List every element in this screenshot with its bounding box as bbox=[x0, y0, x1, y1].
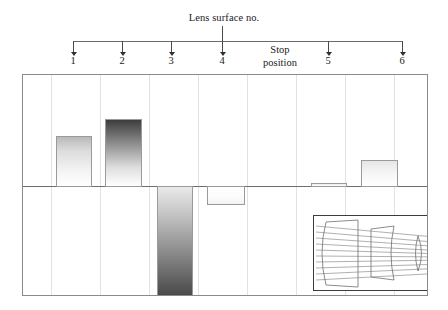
stop-position-line-1: Stop bbox=[249, 44, 311, 57]
surface-arrow-3 bbox=[171, 41, 172, 53]
lens-system-inset bbox=[313, 215, 428, 291]
bar-surface-6 bbox=[361, 160, 398, 187]
bar-surface-5 bbox=[311, 183, 347, 187]
surface-number-1: 1 bbox=[61, 55, 85, 67]
stop-position-line-2: position bbox=[249, 57, 311, 70]
lens-surface-caption: Lens surface no. bbox=[0, 12, 448, 24]
surface-arrow-5 bbox=[328, 41, 329, 53]
surface-arrow-6 bbox=[402, 41, 403, 53]
surface-arrow-2 bbox=[122, 41, 123, 53]
surface-callout-header: Lens surface no. 1 2 3 4 5 6 Stop positi… bbox=[0, 0, 448, 74]
bar-surface-2 bbox=[105, 119, 142, 187]
bar-surface-3 bbox=[157, 186, 193, 296]
surface-number-2: 2 bbox=[110, 55, 134, 67]
gridline-vertical bbox=[100, 75, 101, 295]
surface-number-6: 6 bbox=[390, 55, 414, 67]
surface-arrow-4 bbox=[222, 41, 223, 53]
surface-number-5: 5 bbox=[316, 55, 340, 67]
bar-surface-4 bbox=[207, 186, 245, 205]
figure-container: Lens surface no. 1 2 3 4 5 6 Stop positi… bbox=[0, 0, 448, 310]
lens-element-1 bbox=[322, 220, 358, 287]
ray-bundle bbox=[316, 226, 428, 280]
lens-element-2 bbox=[371, 226, 394, 280]
caption-connector-line bbox=[222, 26, 223, 41]
stop-position-annotation: Stop position bbox=[249, 44, 311, 69]
gridline-vertical bbox=[149, 75, 150, 295]
gridline-vertical bbox=[296, 75, 297, 295]
lens-cross-section-diagram bbox=[314, 216, 428, 290]
surface-number-4: 4 bbox=[210, 55, 234, 67]
bar-surface-1 bbox=[56, 136, 92, 187]
gridline-vertical bbox=[247, 75, 248, 295]
gridline-vertical bbox=[198, 75, 199, 295]
plot-area bbox=[22, 74, 428, 296]
gridline-vertical bbox=[51, 75, 52, 295]
surface-number-3: 3 bbox=[159, 55, 183, 67]
surface-arrow-1 bbox=[73, 41, 74, 53]
